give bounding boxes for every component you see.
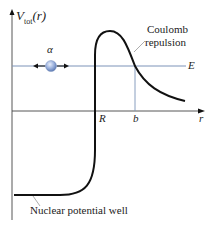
well-label: Nuclear potential well [30,205,128,216]
left-arrow-icon [33,64,38,69]
coulomb-leader [134,41,145,52]
coulomb-label-line2: repulsion [145,37,186,48]
right-arrow-icon [64,64,69,69]
alpha-label: α [47,44,53,55]
y-label-arg: (r) [32,8,46,23]
y-axis-label: Vtot(r) [16,9,46,26]
r-axis-label: r [199,113,203,124]
y-axis [10,9,15,220]
y-axis-arrow-icon [10,9,15,15]
x-axis [12,109,205,114]
alpha-particle [33,61,69,72]
coulomb-label-line1: Coulomb [147,24,188,35]
energy-label: E [188,60,195,71]
b-label: b [133,113,139,124]
R-label: R [99,113,106,124]
alpha-ball-icon [46,61,57,72]
y-label-main: V [16,8,24,23]
